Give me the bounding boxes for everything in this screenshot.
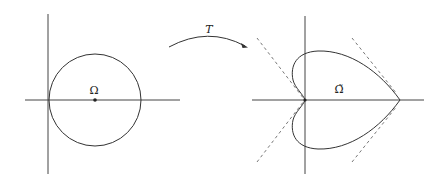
mapping-label: T [205,23,214,36]
tangent-line-upper-left [257,38,304,99]
center-dot [93,98,97,102]
left-figure: Ω [25,14,180,174]
tangent-line-lower-left [257,101,304,162]
right-figure: Ω̃ [252,16,424,174]
cusp-dot [303,98,306,101]
omega-tilde-label: Ω̃ [334,83,343,96]
omega-label: Ω [89,84,98,97]
arrowhead-icon [241,43,248,48]
tangent-line-lower-right [352,106,397,162]
mapping-arrow: T [169,23,248,48]
curved-arrow-icon [169,36,245,47]
diagram-canvas: Ω T Ω̃ [0,0,443,184]
tangent-line-upper-right [352,38,397,94]
